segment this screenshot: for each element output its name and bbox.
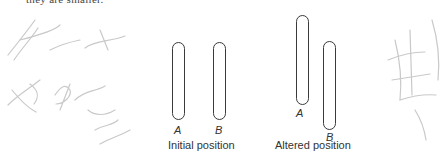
rod-b-initial: [213, 42, 226, 120]
label-a-altered: A: [296, 107, 303, 119]
rod-a-initial: [172, 42, 185, 120]
caption-altered-position: Altered position: [275, 139, 351, 151]
caption-initial-position: Initial position: [168, 139, 235, 151]
rod-b-altered: [323, 41, 336, 130]
label-a-initial: A: [174, 124, 181, 136]
label-b-initial: B: [215, 124, 222, 136]
rod-a-altered: [296, 15, 309, 105]
